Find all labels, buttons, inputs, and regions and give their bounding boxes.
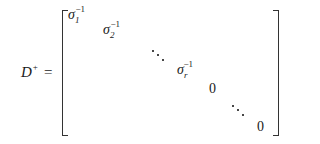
diagonal-ellipsis-icon bbox=[231, 104, 245, 118]
subscript: 1 bbox=[75, 15, 80, 25]
left-bracket bbox=[62, 10, 68, 136]
superscript: −1 bbox=[183, 59, 193, 69]
diagonal-ellipsis-icon bbox=[151, 49, 165, 63]
right-bracket bbox=[273, 10, 279, 136]
subscript: 2 bbox=[110, 30, 115, 40]
matrix-entry-sigma-2: σ2−1 bbox=[103, 23, 120, 37]
lhs-symbol: D bbox=[21, 64, 32, 80]
lhs-superscript: + bbox=[33, 62, 38, 72]
equals-sign: = bbox=[44, 64, 52, 80]
matrix-entry-sigma-1: σ1−1 bbox=[68, 8, 85, 22]
superscript: −1 bbox=[110, 19, 120, 29]
lhs-expression: D+= bbox=[21, 62, 52, 81]
matrix-entry-zero: 0 bbox=[257, 120, 264, 134]
superscript: −1 bbox=[75, 4, 85, 14]
subscript: r bbox=[184, 70, 188, 80]
matrix-entry-zero: 0 bbox=[209, 82, 216, 96]
matrix-entry-sigma-r: σr−1 bbox=[177, 63, 193, 77]
